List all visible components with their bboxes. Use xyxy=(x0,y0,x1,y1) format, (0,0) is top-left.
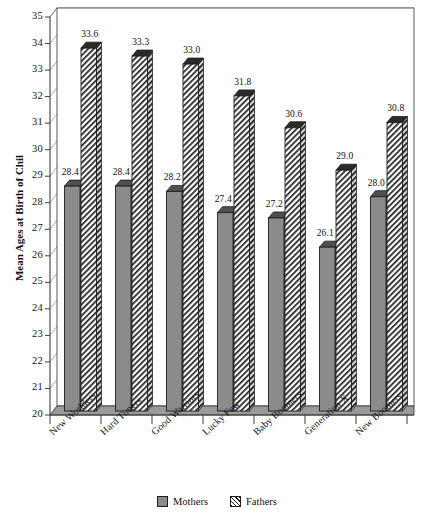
bar-value-label: 29.0 xyxy=(330,151,360,161)
legend-label-fathers: Fathers xyxy=(246,496,277,507)
bar-value-label: 30.8 xyxy=(381,103,411,113)
y-axis-tick-label: 24 xyxy=(21,302,43,313)
bar-fathers-5 xyxy=(336,170,352,411)
y-axis-tick-label: 23 xyxy=(21,328,43,339)
y-axis-tick-label: 34 xyxy=(21,37,43,48)
bar-value-label: 28.4 xyxy=(106,167,136,177)
y-axis-tick-label: 31 xyxy=(21,116,43,127)
bar-fathers-0 xyxy=(81,48,97,411)
y-axis-tick-label: 35 xyxy=(21,10,43,21)
y-axis-tick-label: 28 xyxy=(21,196,43,207)
bar-mothers-0 xyxy=(65,186,81,411)
bar-value-label: 33.3 xyxy=(126,37,156,47)
bar-fathers-3 xyxy=(234,96,250,411)
bar-value-label: 27.4 xyxy=(208,194,238,204)
y-axis-tick-label: 22 xyxy=(21,355,43,366)
legend-swatch-mothers-icon xyxy=(157,496,168,507)
bar-value-label: 27.2 xyxy=(259,199,289,209)
y-axis-tick-label: 21 xyxy=(21,381,43,392)
bar-chart: Mean Ages at Birth of Chil 3534333231302… xyxy=(0,0,434,522)
bar-value-label: 31.8 xyxy=(228,77,258,87)
y-axis-tick-label: 20 xyxy=(21,408,43,419)
y-axis-tick-label: 27 xyxy=(21,222,43,233)
bar-mothers-1 xyxy=(116,186,132,411)
bar-value-label: 28.0 xyxy=(361,178,391,188)
bar-value-label: 30.6 xyxy=(279,109,309,119)
bar-fathers-6 xyxy=(387,122,403,411)
bar-mothers-5 xyxy=(320,247,336,411)
bar-mothers-6 xyxy=(371,197,387,411)
bar-fathers-2 xyxy=(183,64,199,411)
y-axis-tick-label: 33 xyxy=(21,63,43,74)
bar-value-label: 28.4 xyxy=(55,167,85,177)
chart-plot-area xyxy=(0,0,434,522)
bar-value-label: 33.0 xyxy=(177,45,207,55)
legend-item-mothers: Mothers xyxy=(157,496,208,507)
bar-value-label: 26.1 xyxy=(310,228,340,238)
y-axis-tick-label: 32 xyxy=(21,90,43,101)
bar-mothers-3 xyxy=(218,213,234,411)
y-axis-tick-label: 30 xyxy=(21,143,43,154)
bar-value-label: 28.2 xyxy=(157,172,187,182)
bar-mothers-2 xyxy=(167,191,183,411)
y-axis-tick-label: 29 xyxy=(21,169,43,180)
bar-mothers-4 xyxy=(269,218,285,411)
legend-label-mothers: Mothers xyxy=(173,496,208,507)
legend-swatch-fathers-icon xyxy=(230,496,241,507)
chart-legend: Mothers Fathers xyxy=(0,496,434,507)
bar-fathers-4 xyxy=(285,128,301,411)
y-axis-tick-label: 26 xyxy=(21,249,43,260)
y-axis-tick-label: 25 xyxy=(21,275,43,286)
bar-fathers-1 xyxy=(132,56,148,411)
bar-value-label: 33.6 xyxy=(75,29,105,39)
legend-item-fathers: Fathers xyxy=(230,496,277,507)
